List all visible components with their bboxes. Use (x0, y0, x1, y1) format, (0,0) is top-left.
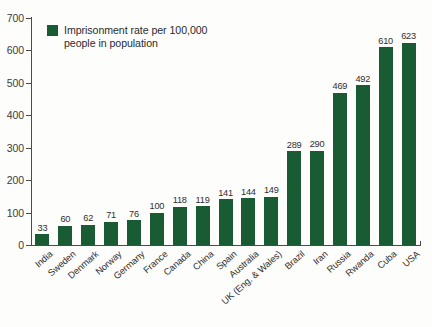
bar[interactable] (219, 199, 233, 245)
bar-value-label: 149 (257, 185, 285, 195)
bar[interactable] (287, 151, 301, 245)
plot-area: 3360627176100118119141144149289290469492… (31, 18, 420, 245)
bar[interactable] (104, 222, 118, 245)
y-axis-tick-label: 0 (0, 239, 24, 251)
bar[interactable] (150, 213, 164, 245)
bar[interactable] (81, 225, 95, 245)
y-axis-tick-label: 500 (0, 77, 24, 89)
bar[interactable] (173, 207, 187, 245)
y-axis-tick-label: 200 (0, 174, 24, 186)
bar[interactable] (196, 206, 210, 245)
x-axis-end-tick (420, 241, 421, 246)
y-axis-tick-label: 400 (0, 109, 24, 121)
bar[interactable] (127, 220, 141, 245)
bar-value-label: 33 (28, 223, 56, 233)
y-axis-tick-label: 100 (0, 207, 24, 219)
bar[interactable] (35, 234, 49, 245)
bar[interactable] (58, 226, 72, 245)
bar[interactable] (402, 43, 416, 245)
bar-value-label: 492 (349, 74, 377, 84)
bar[interactable] (310, 151, 324, 245)
x-axis-category-label: USA (400, 249, 421, 269)
x-axis-category-label: Cuba (375, 249, 398, 271)
bar[interactable] (333, 93, 347, 245)
y-axis-tick-label: 300 (0, 142, 24, 154)
y-axis-tick (26, 245, 31, 246)
x-axis-category-label: China (191, 249, 216, 272)
bar[interactable] (356, 85, 370, 245)
y-axis-tick-label: 600 (0, 44, 24, 56)
bar[interactable] (379, 47, 393, 245)
bar-value-label: 623 (395, 31, 423, 41)
y-axis-tick-label: 700 (0, 12, 24, 24)
x-axis-category-label: Brazil (283, 249, 307, 271)
bar-chart: Imprisonment rate per 100,000 people in … (0, 0, 432, 327)
bar[interactable] (241, 198, 255, 245)
bar-value-label: 290 (303, 139, 331, 149)
bar[interactable] (264, 197, 278, 245)
x-axis-line (31, 245, 421, 246)
